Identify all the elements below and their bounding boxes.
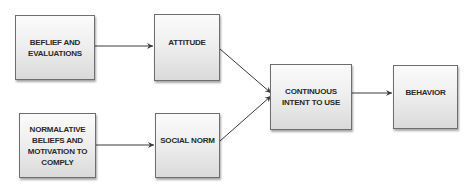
node-label: BEFLIEF AND EVALUATIONS bbox=[16, 37, 94, 59]
node-continuous-intent-to-use: CONTINUOUS INTENT TO USE bbox=[270, 64, 352, 130]
arrow-social-norm-to-intent bbox=[220, 96, 271, 141]
node-normative-beliefs: NORMALATIVE BELIEFS AND MOTIVATION TO CO… bbox=[19, 113, 96, 178]
node-social-norm: SOCIAL NORM bbox=[155, 113, 220, 178]
node-belief-and-evaluations: BEFLIEF AND EVALUATIONS bbox=[15, 15, 95, 80]
node-label: BEHAVIOR bbox=[405, 87, 445, 98]
node-behavior: BEHAVIOR bbox=[393, 65, 458, 129]
node-label: NORMALATIVE BELIEFS AND MOTIVATION TO CO… bbox=[20, 124, 95, 168]
node-label: ATTITUDE bbox=[168, 37, 205, 48]
arrow-attitude-to-intent bbox=[220, 49, 271, 93]
node-label: CONTINUOUS INTENT TO USE bbox=[271, 86, 351, 108]
node-attitude: ATTITUDE bbox=[154, 14, 220, 81]
node-label: SOCIAL NORM bbox=[160, 135, 215, 146]
